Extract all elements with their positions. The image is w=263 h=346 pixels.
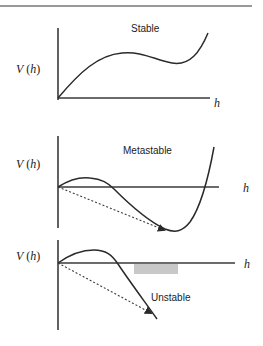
panel-stable: Stable V (h) h [16, 23, 220, 110]
potential-curve [58, 33, 208, 98]
y-axis-label: V (h) [16, 62, 40, 76]
y-axis-label: V (h) [16, 249, 40, 263]
x-axis-label: h [244, 257, 250, 271]
potential-curve [58, 250, 157, 319]
panel-title: Unstable [151, 292, 191, 303]
panel-metastable: Metastable V (h) h [16, 136, 249, 231]
x-axis-label: h [243, 181, 249, 195]
shaded-region [134, 264, 178, 274]
panel-title: Stable [131, 23, 160, 34]
potential-diagram: Stable V (h) h Metastable V (h) h Unstab… [0, 0, 263, 346]
x-axis-label: h [214, 96, 220, 110]
panel-unstable: Unstable V (h) h [16, 240, 250, 330]
panel-title: Metastable [123, 145, 172, 156]
tunneling-arrow [58, 187, 164, 230]
y-axis-label: V (h) [16, 157, 40, 171]
